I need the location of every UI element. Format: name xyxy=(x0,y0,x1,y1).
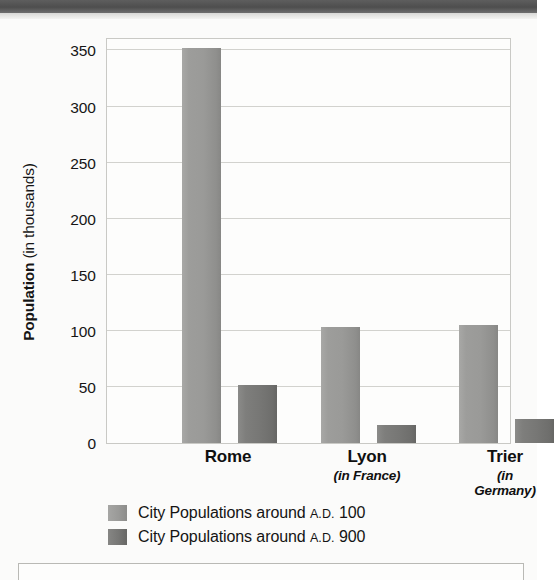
bar-rome-series-1 xyxy=(182,48,221,443)
bar-rome-series-2 xyxy=(238,385,277,443)
gridline xyxy=(107,218,510,219)
gridline xyxy=(107,106,510,107)
legend-label-2: City Populations around A.D. 900 xyxy=(138,528,365,546)
y-tick-label: 100 xyxy=(70,324,96,340)
gridline xyxy=(107,330,510,331)
bar-trier-series-1 xyxy=(459,325,498,443)
y-axis-title: Population (in thousands) xyxy=(14,37,44,467)
legend-swatch-1 xyxy=(108,505,127,521)
top-decorative-band xyxy=(0,0,537,13)
y-tick-label: 200 xyxy=(70,212,96,228)
legend-row-2: City Populations around A.D. 900 xyxy=(108,525,365,549)
y-axis-tick-labels: 050100150200250300350 xyxy=(48,19,104,469)
gridline xyxy=(107,49,510,50)
x-category-trier: Trier(in Germany) xyxy=(474,447,535,498)
y-tick-label: 350 xyxy=(70,44,96,60)
bottom-caption-box xyxy=(18,563,524,580)
gridline xyxy=(107,274,510,275)
y-tick-label: 50 xyxy=(79,380,96,396)
bar-lyon-series-1 xyxy=(321,327,360,443)
legend-swatch-2 xyxy=(108,529,127,545)
x-category-name: Lyon xyxy=(334,447,401,467)
y-axis-title-bold: Population xyxy=(20,263,37,341)
y-tick-label: 300 xyxy=(70,100,96,116)
y-tick-label: 0 xyxy=(87,436,96,452)
chart-legend: City Populations around A.D. 100City Pop… xyxy=(108,501,365,549)
x-category-subtitle: (in Germany) xyxy=(474,468,535,498)
x-category-lyon: Lyon(in France) xyxy=(334,447,401,483)
x-category-name: Trier xyxy=(474,447,535,467)
gridline xyxy=(107,162,510,163)
x-category-subtitle: (in France) xyxy=(334,468,401,483)
legend-row-1: City Populations around A.D. 100 xyxy=(108,501,365,525)
bar-trier-series-2 xyxy=(515,419,554,443)
x-axis-category-labels: RomeLyon(in France)Trier(in Germany) xyxy=(106,447,511,507)
plot-area xyxy=(106,38,511,444)
y-tick-label: 250 xyxy=(70,156,96,172)
bar-lyon-series-2 xyxy=(377,425,416,443)
bar-chart-figure: Population (in thousands) 05010015020025… xyxy=(0,19,537,580)
y-axis-title-normal: (in thousands) xyxy=(20,163,37,263)
gridline xyxy=(107,386,510,387)
x-category-name: Rome xyxy=(205,447,251,467)
x-category-rome: Rome xyxy=(205,447,251,467)
y-tick-label: 150 xyxy=(70,268,96,284)
legend-label-1: City Populations around A.D. 100 xyxy=(138,504,365,522)
